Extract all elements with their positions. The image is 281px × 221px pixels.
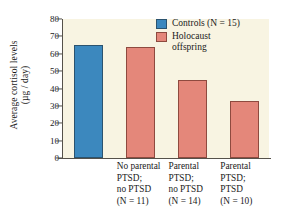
legend-item: Controls (N = 15) <box>156 18 276 29</box>
x-axis-line <box>58 158 271 159</box>
x-axis-category-labels: No parental PTSD; no PTSD (N = 11)Parent… <box>62 161 277 219</box>
y-axis-title-line2: (µg / day) <box>20 40 31 129</box>
legend-swatch-icon <box>156 32 167 42</box>
y-axis-top-cap <box>62 19 63 23</box>
y-axis-tick-labels: 01020304050607080 <box>38 19 59 163</box>
bar <box>74 45 103 158</box>
legend-label: Holocaust offspring <box>172 31 211 52</box>
x-category-label: Parental PTSD; PTSD (N = 10) <box>220 161 252 207</box>
y-axis-title-line1: Average cortisol levels <box>9 40 20 129</box>
bar <box>178 80 207 158</box>
legend-label: Controls (N = 15) <box>172 18 240 29</box>
legend-swatch-icon <box>156 19 167 29</box>
y-axis-title: Average cortisol levels (µg / day) <box>0 0 40 170</box>
chart-legend: Controls (N = 15)Holocaust offspring <box>156 18 276 54</box>
x-category-label: Parental PTSD; no PTSD (N = 14) <box>169 161 203 207</box>
bar <box>230 101 259 158</box>
x-category-label: No parental PTSD; no PTSD (N = 11) <box>117 161 161 207</box>
bar <box>126 47 155 158</box>
legend-item: Holocaust offspring <box>156 31 276 52</box>
chart-figure: Average cortisol levels (µg / day) 01020… <box>0 0 281 221</box>
